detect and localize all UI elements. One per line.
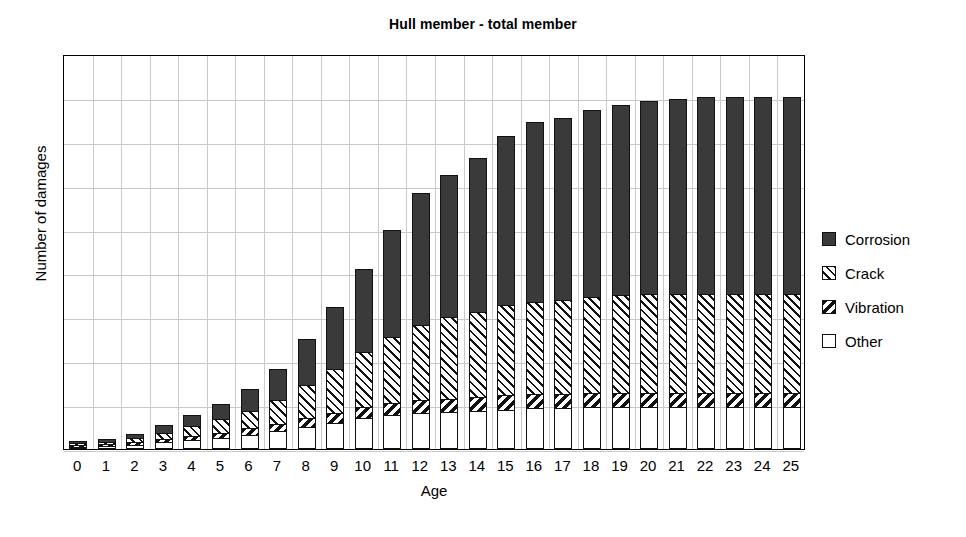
bar-segment-other[interactable] [640,407,658,449]
bar-segment-other[interactable] [98,446,116,449]
bar-stack[interactable] [383,230,401,449]
bar-segment-other[interactable] [440,412,458,449]
bar-segment-corrosion[interactable] [754,97,772,295]
bar-stack[interactable] [783,97,801,449]
bar-segment-other[interactable] [669,407,687,449]
bar-stack[interactable] [241,389,259,449]
bar-stack[interactable] [298,339,316,449]
legend-item-other[interactable]: Other [822,324,962,358]
bar-segment-crack[interactable] [697,294,715,393]
bar-segment-other[interactable] [241,435,259,449]
bar-segment-vibration[interactable] [155,439,173,442]
bar-segment-corrosion[interactable] [98,439,116,441]
bar-segment-crack[interactable] [783,294,801,393]
bar-segment-corrosion[interactable] [497,136,515,305]
bar-segment-crack[interactable] [326,369,344,413]
bar-segment-corrosion[interactable] [583,110,601,297]
bar-stack[interactable] [526,122,544,449]
bar-segment-crack[interactable] [383,337,401,403]
bar-segment-corrosion[interactable] [440,175,458,318]
bar-stack[interactable] [583,110,601,449]
bar-segment-corrosion[interactable] [126,434,144,438]
bar-segment-crack[interactable] [754,294,772,393]
bar-stack[interactable] [726,97,744,449]
bar-segment-crack[interactable] [583,297,601,394]
bar-segment-corrosion[interactable] [726,97,744,295]
bar-segment-vibration[interactable] [726,393,744,407]
bar-segment-crack[interactable] [412,325,430,400]
bar-segment-other[interactable] [497,410,515,450]
bar-stack[interactable] [412,193,430,449]
bar-segment-crack[interactable] [469,312,487,398]
bar-segment-crack[interactable] [212,419,230,432]
bar-segment-corrosion[interactable] [155,425,173,433]
bar-segment-corrosion[interactable] [469,158,487,312]
bar-segment-corrosion[interactable] [526,122,544,302]
bar-segment-crack[interactable] [241,411,259,429]
bar-segment-vibration[interactable] [98,444,116,446]
bar-segment-corrosion[interactable] [298,339,316,385]
bar-segment-vibration[interactable] [640,393,658,407]
bar-segment-vibration[interactable] [469,397,487,410]
bar-segment-vibration[interactable] [355,407,373,418]
bar-segment-other[interactable] [212,438,230,449]
bar-stack[interactable] [355,269,373,449]
bar-segment-crack[interactable] [554,300,572,394]
legend-item-vibration[interactable]: Vibration [822,290,962,324]
bar-segment-crack[interactable] [355,352,373,407]
bar-stack[interactable] [640,101,658,449]
bar-segment-crack[interactable] [612,295,630,393]
bar-stack[interactable] [440,175,458,449]
bar-segment-vibration[interactable] [783,393,801,407]
bar-segment-crack[interactable] [497,305,515,395]
bar-stack[interactable] [669,99,687,449]
bar-stack[interactable] [697,97,715,449]
bar-segment-corrosion[interactable] [183,415,201,426]
bar-segment-vibration[interactable] [669,393,687,407]
bar-stack[interactable] [98,439,116,449]
bar-stack[interactable] [212,404,230,449]
bar-segment-other[interactable] [583,407,601,449]
bar-segment-crack[interactable] [440,317,458,398]
bar-segment-corrosion[interactable] [640,101,658,294]
bar-segment-vibration[interactable] [298,418,316,427]
bar-segment-corrosion[interactable] [554,118,572,300]
bar-segment-vibration[interactable] [697,393,715,407]
bar-segment-other[interactable] [412,413,430,449]
bar-segment-crack[interactable] [183,426,201,436]
bar-segment-vibration[interactable] [269,424,287,432]
bar-stack[interactable] [754,97,772,449]
bar-segment-corrosion[interactable] [697,97,715,295]
bar-stack[interactable] [69,441,87,449]
bar-segment-corrosion[interactable] [269,369,287,400]
bar-segment-vibration[interactable] [554,394,572,408]
bar-segment-crack[interactable] [669,294,687,393]
bar-segment-other[interactable] [526,408,544,449]
bar-segment-vibration[interactable] [326,413,344,423]
bar-segment-crack[interactable] [98,442,116,444]
bar-segment-corrosion[interactable] [412,193,430,325]
bar-segment-vibration[interactable] [69,445,87,447]
bar-segment-crack[interactable] [155,433,173,440]
bar-stack[interactable] [469,158,487,449]
bar-segment-other[interactable] [783,407,801,449]
bar-segment-vibration[interactable] [412,400,430,413]
bar-segment-vibration[interactable] [383,403,401,415]
bar-segment-crack[interactable] [726,294,744,393]
bar-segment-vibration[interactable] [212,433,230,438]
bar-segment-vibration[interactable] [754,393,772,407]
bar-segment-corrosion[interactable] [241,389,259,411]
bar-segment-other[interactable] [726,407,744,449]
bar-segment-vibration[interactable] [526,394,544,408]
bar-segment-corrosion[interactable] [783,97,801,295]
bar-segment-crack[interactable] [526,302,544,394]
bar-segment-other[interactable] [697,407,715,449]
bar-segment-other[interactable] [754,407,772,449]
bar-segment-other[interactable] [126,445,144,449]
bar-segment-vibration[interactable] [183,436,201,440]
bar-segment-crack[interactable] [69,443,87,445]
bar-segment-other[interactable] [183,440,201,449]
bar-stack[interactable] [155,425,173,449]
bar-stack[interactable] [183,415,201,449]
bar-segment-crack[interactable] [298,385,316,418]
